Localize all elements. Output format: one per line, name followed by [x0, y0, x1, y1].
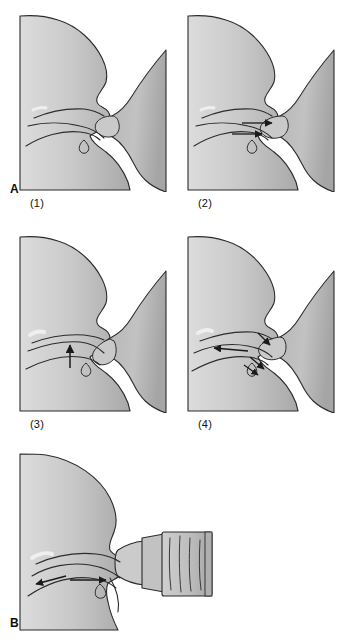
panel-a1 [18, 12, 168, 192]
group-label-b: B [10, 617, 19, 629]
panel-label-a1: (1) [30, 198, 44, 209]
panel-label-a2: (2) [198, 198, 212, 209]
scan-artifact-text [112, 2, 115, 11]
panel-a4 [186, 233, 336, 413]
panel-a4-drawing [186, 233, 336, 413]
panel-label-a4: (4) [198, 419, 212, 430]
panel-b1 [14, 452, 232, 632]
figure-root: (1) [0, 0, 346, 640]
panel-a3-drawing [18, 233, 168, 413]
infant-head-silhouette [20, 16, 130, 190]
infant-head-silhouette [20, 237, 130, 411]
group-label-a: A [10, 183, 19, 195]
infant-head-silhouette [188, 16, 298, 190]
infant-head-silhouette [20, 454, 125, 630]
panel-b1-drawing [14, 452, 232, 632]
panel-a1-drawing [18, 12, 168, 192]
panel-a2 [186, 12, 336, 192]
bottle-collar [142, 534, 164, 592]
panel-a3 [18, 233, 168, 413]
panel-a2-drawing [186, 12, 336, 192]
bottle-edge-band [205, 532, 212, 596]
bottle-teat [115, 541, 144, 585]
lip-contour-line [110, 578, 119, 612]
infant-head-silhouette [188, 237, 298, 411]
panel-label-a3: (3) [30, 419, 44, 430]
